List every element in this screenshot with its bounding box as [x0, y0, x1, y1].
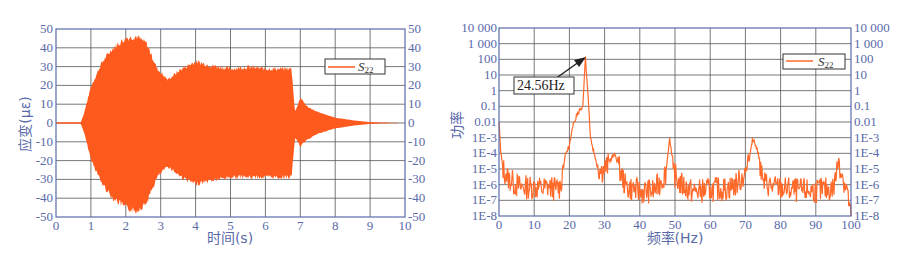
y2-tick-label: 1: [854, 83, 861, 98]
y-tick-label: 1E-8: [472, 208, 497, 223]
x-tick-label: 6: [262, 218, 269, 233]
x-tick-label: 30: [598, 217, 611, 232]
peak-frequency-label: 24.56Hz: [517, 78, 565, 93]
left-x-axis-label: 时间(s): [207, 230, 253, 246]
y2-tick-label: 1 000: [854, 36, 883, 51]
right-y-axis-label: 功率: [449, 111, 465, 139]
y-tick-label: 1E-4: [472, 145, 498, 160]
y2-tick-label: 0.1: [854, 98, 870, 113]
y2-tick-label: 0: [408, 115, 415, 130]
y-tick-label: -20: [36, 153, 53, 168]
y-tick-label: 1: [491, 83, 498, 98]
frequency-power-chart: 10 0001 0001001010.10.011E-31E-41E-51E-6…: [449, 20, 890, 246]
y2-tick-label: 1E-6: [854, 177, 880, 192]
y2-tick-label: 0.01: [854, 114, 877, 129]
x-tick-label: 100: [841, 217, 861, 232]
right-x-axis-label: 频率(Hz): [647, 230, 704, 246]
right-y2-tick-labels: 10 0001 0001001010.10.011E-31E-41E-51E-6…: [854, 20, 890, 223]
x-tick-label: 10: [528, 217, 541, 232]
x-tick-label: 60: [704, 217, 717, 232]
right-y-tick-labels: 10 0001 0001001010.10.011E-31E-41E-51E-6…: [461, 20, 497, 223]
arrow-head-icon: [574, 57, 586, 67]
x-tick-label: 9: [367, 218, 374, 233]
y-tick-label: 0.1: [481, 98, 497, 113]
x-tick-label: 70: [739, 217, 752, 232]
y2-tick-label: 1E-7: [854, 192, 880, 207]
x-tick-label: 1: [88, 218, 95, 233]
y-tick-label: 20: [40, 77, 53, 92]
x-tick-label: 2: [123, 218, 130, 233]
y-tick-label: -30: [36, 171, 53, 186]
y2-tick-label: 1E-4: [854, 145, 880, 160]
y-tick-label: 1E-6: [472, 177, 498, 192]
y2-tick-label: -40: [408, 190, 425, 205]
left-y-tick-labels: 50403020100-10-20-30-40-50: [36, 21, 53, 224]
y2-tick-label: 20: [408, 77, 421, 92]
y2-tick-label: 40: [408, 40, 421, 55]
y-tick-label: 1E-7: [472, 192, 498, 207]
y-tick-label: 0: [47, 115, 54, 130]
x-tick-label: 40: [633, 217, 646, 232]
charts-canvas: 50403020100-10-20-30-40-50 50403020100-1…: [0, 0, 905, 268]
y-tick-label: -50: [36, 209, 53, 224]
y2-tick-label: 50: [408, 21, 421, 36]
y2-tick-label: 30: [408, 59, 421, 74]
y-tick-label: 1E-5: [472, 161, 497, 176]
y-tick-label: 10 000: [461, 20, 497, 35]
x-tick-label: 10: [399, 218, 412, 233]
left-legend: S22: [325, 59, 385, 75]
y-tick-label: 10: [40, 96, 53, 111]
y2-tick-label: 1E-3: [854, 130, 879, 145]
peak-annotation: 24.56Hz: [514, 57, 586, 94]
y-tick-label: -10: [36, 134, 53, 149]
legend-subscript: 22: [825, 60, 834, 70]
y2-tick-label: 10 000: [854, 20, 890, 35]
y-tick-label: -40: [36, 190, 53, 205]
y2-tick-label: -30: [408, 171, 425, 186]
y-tick-label: 100: [478, 51, 498, 66]
y-tick-label: 1 000: [468, 36, 497, 51]
time-strain-chart: 50403020100-10-20-30-40-50 50403020100-1…: [17, 21, 425, 246]
y-tick-label: 10: [484, 67, 497, 82]
y-tick-label: 1E-3: [472, 130, 497, 145]
y2-tick-label: 1E-5: [854, 161, 879, 176]
y2-tick-label: 10: [408, 96, 421, 111]
y2-tick-label: -20: [408, 153, 425, 168]
x-tick-label: 7: [297, 218, 304, 233]
x-tick-label: 0: [53, 218, 60, 233]
x-tick-label: 0: [496, 217, 503, 232]
y2-tick-label: 100: [854, 51, 874, 66]
left-y-axis-label: 应变(με): [17, 96, 33, 151]
y2-tick-label: 10: [854, 67, 867, 82]
left-y2-tick-labels: 50403020100-10-20-30-40-50: [408, 21, 425, 224]
legend-subscript: 22: [365, 65, 374, 75]
y-tick-label: 50: [40, 21, 53, 36]
x-tick-label: 20: [563, 217, 576, 232]
x-tick-label: 8: [332, 218, 339, 233]
y-tick-label: 0.01: [474, 114, 497, 129]
x-tick-label: 90: [809, 217, 822, 232]
x-tick-label: 80: [774, 217, 787, 232]
x-tick-label: 4: [192, 218, 199, 233]
x-tick-label: 3: [157, 218, 164, 233]
y-tick-label: 30: [40, 59, 53, 74]
right-legend: S22: [783, 54, 845, 70]
y-tick-label: 40: [40, 40, 53, 55]
y2-tick-label: -10: [408, 134, 425, 149]
